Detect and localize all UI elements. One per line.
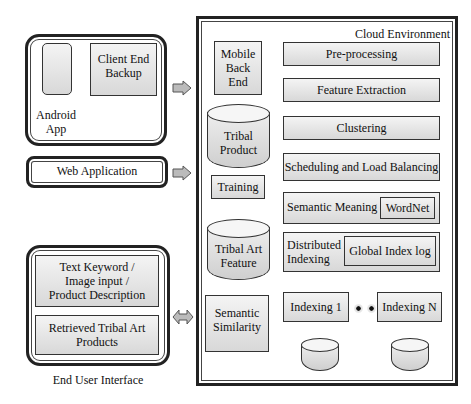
web-application-label: Web Application xyxy=(26,164,168,179)
client-end-backup: Client End Backup xyxy=(90,43,157,96)
indexing-n-box: Indexing N xyxy=(377,292,442,322)
feature-extraction-box: Feature Extraction xyxy=(283,78,440,102)
tribal-product-database: Tribal Product xyxy=(207,104,270,167)
tribal-art-feature-database: Tribal Art Feature xyxy=(207,219,270,279)
bidirectional-arrow-icon xyxy=(172,308,194,326)
android-device-icon xyxy=(42,43,72,95)
mobile-back-end: Mobile Back End xyxy=(214,41,262,95)
index-1-database-icon xyxy=(301,338,339,370)
clustering-box: Clustering xyxy=(283,116,440,140)
retrieved-products-box: Retrieved Tribal Art Products xyxy=(35,315,159,355)
arrow-right-icon xyxy=(172,80,192,96)
arrow-right-icon xyxy=(172,165,192,181)
semantic-similarity-box: Semantic Similarity xyxy=(205,295,269,352)
indexing-1-box: Indexing 1 xyxy=(283,292,349,322)
end-user-interface-caption: End User Interface xyxy=(26,373,170,388)
distributed-indexing-label: Distributed Indexing xyxy=(287,238,341,266)
training-box: Training xyxy=(211,175,265,199)
pre-processing-box: Pre-processing xyxy=(283,42,440,66)
android-app-label: Android App xyxy=(30,108,82,136)
ellipsis-dot-icon xyxy=(354,304,363,313)
cloud-environment-title: Cloud Environment xyxy=(340,27,450,42)
global-index-log-box: Global Index log xyxy=(344,236,436,266)
ellipsis-dot-icon xyxy=(367,304,376,313)
scheduling-load-balancing-box: Scheduling and Load Balancing xyxy=(283,153,440,181)
query-input-box: Text Keyword / Image input / Product Des… xyxy=(35,255,159,307)
wordnet-box: WordNet xyxy=(380,197,435,219)
index-n-database-icon xyxy=(391,338,429,370)
semantic-meaning-label: Semantic Meaning xyxy=(287,200,377,215)
